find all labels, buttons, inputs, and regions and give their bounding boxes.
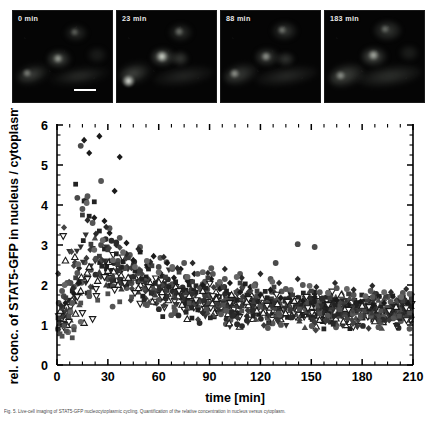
- y-tick-label: 1: [41, 319, 48, 333]
- data-point: [83, 232, 89, 238]
- data-point: [117, 235, 123, 241]
- data-point: [72, 310, 78, 316]
- data-point: [307, 283, 313, 289]
- data-point: [239, 309, 244, 314]
- data-point: [346, 291, 351, 296]
- data-point: [251, 314, 256, 319]
- data-point: [276, 280, 282, 287]
- data-point: [321, 327, 326, 332]
- data-point: [97, 254, 102, 259]
- data-point: [407, 291, 413, 297]
- data-point: [336, 312, 341, 317]
- figure-caption: Fig. 5. Live-cell imaging of STAT5-GFP n…: [4, 409, 433, 415]
- y-tick-label: 6: [41, 119, 48, 133]
- data-point: [189, 306, 194, 311]
- x-tick-label: 60: [152, 370, 166, 384]
- chart-canvas: 0306090120150180210 0123456 time [min] r…: [0, 108, 437, 408]
- data-point: [62, 323, 67, 328]
- data-point: [78, 143, 84, 149]
- data-point: [62, 257, 68, 263]
- scale-bar: [74, 89, 96, 92]
- data-point: [156, 264, 162, 270]
- micrograph-panel-label: 88 min: [226, 14, 251, 23]
- x-tick-label: 30: [101, 370, 115, 384]
- data-point: [132, 264, 138, 270]
- data-point: [239, 323, 245, 329]
- data-point: [78, 288, 84, 294]
- data-point: [277, 311, 282, 316]
- data-point: [138, 269, 143, 274]
- data-point: [85, 193, 91, 199]
- cell-field: [117, 11, 216, 102]
- data-point: [75, 261, 81, 267]
- data-point: [98, 178, 104, 184]
- data-point: [223, 308, 229, 314]
- data-point: [78, 301, 83, 306]
- data-point: [89, 317, 95, 323]
- data-point: [234, 321, 240, 327]
- data-point: [66, 314, 71, 319]
- data-point: [55, 270, 61, 277]
- data-point: [227, 280, 233, 287]
- cell-field: [325, 11, 424, 102]
- micrograph-panel-label: 183 min: [330, 14, 359, 23]
- data-point: [313, 284, 319, 291]
- data-point: [238, 281, 243, 286]
- data-point: [295, 276, 301, 283]
- data-point: [258, 305, 263, 310]
- data-point: [72, 254, 78, 260]
- data-point: [370, 294, 376, 300]
- data-point: [222, 276, 228, 282]
- data-point: [255, 289, 260, 294]
- data-point: [221, 303, 226, 308]
- data-point: [190, 316, 195, 321]
- data-point: [273, 260, 279, 266]
- data-point: [74, 195, 80, 201]
- data-point: [89, 242, 94, 247]
- y-axis-ticks: [57, 125, 413, 365]
- data-point: [156, 306, 162, 312]
- data-point: [120, 249, 126, 255]
- data-point: [217, 279, 223, 285]
- data-point: [312, 244, 318, 250]
- data-point: [60, 234, 66, 240]
- cell-field: [13, 11, 112, 102]
- data-point: [325, 313, 331, 319]
- data-point: [101, 218, 107, 225]
- data-point: [190, 260, 196, 267]
- data-point: [167, 285, 172, 290]
- data-point: [297, 307, 302, 312]
- data-point: [319, 296, 325, 302]
- data-point: [116, 262, 121, 267]
- data-point: [160, 314, 165, 319]
- data-point: [110, 257, 116, 263]
- data-point: [317, 311, 322, 316]
- data-point: [258, 316, 264, 322]
- data-point: [84, 200, 90, 206]
- data-point: [358, 313, 363, 318]
- data-point: [172, 305, 177, 310]
- data-point: [91, 247, 97, 253]
- data-point: [363, 293, 369, 299]
- data-point: [176, 313, 182, 319]
- data-point: [204, 307, 209, 312]
- data-point: [368, 288, 374, 294]
- y-axis-title: rel. conc. of STAT5-GFP in nucleus / cyt…: [7, 108, 21, 384]
- micrograph-panel-0min: 0 min: [12, 10, 113, 103]
- x-tick-label: 180: [352, 370, 373, 384]
- data-point: [99, 264, 104, 269]
- cell-field: [221, 11, 320, 102]
- data-point: [73, 182, 78, 187]
- data-point: [59, 288, 65, 294]
- data-point: [64, 329, 69, 334]
- data-point: [407, 311, 412, 316]
- micrograph-panel-23min: 23 min: [116, 10, 217, 103]
- data-point: [265, 325, 271, 331]
- data-point: [168, 312, 174, 318]
- data-point: [300, 313, 305, 318]
- data-point: [129, 295, 134, 300]
- data-point: [210, 271, 216, 277]
- data-point: [184, 316, 190, 322]
- data-point: [328, 295, 333, 300]
- data-point: [302, 324, 308, 330]
